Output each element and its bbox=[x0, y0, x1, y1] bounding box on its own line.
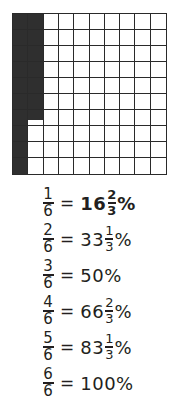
denominator: 6 bbox=[43, 385, 53, 398]
grid-cell bbox=[28, 14, 43, 30]
denominator: 3 bbox=[105, 241, 113, 253]
numerator: 6 bbox=[43, 368, 53, 381]
grid-cell bbox=[90, 142, 105, 158]
grid-cell bbox=[59, 78, 74, 94]
hundred-grid bbox=[12, 13, 167, 175]
percent-whole: 50 bbox=[80, 265, 104, 286]
grid-cell bbox=[28, 46, 43, 62]
denominator: 6 bbox=[43, 205, 53, 218]
denominator: 6 bbox=[43, 277, 53, 290]
grid-cell bbox=[120, 46, 135, 62]
equation-1: 1 6 = 16 2 3 % bbox=[42, 188, 135, 218]
percent-sign: % bbox=[114, 229, 131, 250]
fraction: 4 6 bbox=[42, 296, 54, 326]
fraction: 6 6 bbox=[42, 368, 54, 398]
grid-cell bbox=[44, 142, 59, 158]
fraction: 3 6 bbox=[42, 260, 54, 290]
grid-cell bbox=[28, 142, 43, 158]
percent-sign: % bbox=[114, 301, 131, 322]
grid-cell bbox=[105, 158, 120, 174]
percent-fraction: 2 3 bbox=[105, 297, 113, 324]
fraction: 5 6 bbox=[42, 332, 54, 362]
grid-cell bbox=[74, 30, 89, 46]
grid-cell bbox=[13, 110, 28, 126]
fraction: 2 6 bbox=[42, 224, 54, 254]
grid-cell bbox=[28, 30, 43, 46]
grid-cell bbox=[28, 78, 43, 94]
grid-cell bbox=[120, 78, 135, 94]
grid-cell bbox=[135, 30, 150, 46]
grid-cell bbox=[151, 46, 166, 62]
percent-whole: 83 bbox=[80, 337, 104, 358]
grid-cell bbox=[59, 94, 74, 110]
grid-cell bbox=[151, 158, 166, 174]
grid-cell bbox=[135, 62, 150, 78]
grid-cell bbox=[13, 14, 28, 30]
equals-sign: = bbox=[60, 337, 74, 357]
grid-cell bbox=[151, 14, 166, 30]
grid-cell bbox=[74, 78, 89, 94]
equals-sign: = bbox=[60, 373, 74, 393]
grid-cell bbox=[44, 30, 59, 46]
numerator: 3 bbox=[43, 260, 53, 273]
grid-cell bbox=[28, 126, 43, 142]
grid-cell bbox=[44, 94, 59, 110]
grid-cell bbox=[105, 46, 120, 62]
grid-cell bbox=[105, 30, 120, 46]
grid-cell bbox=[135, 126, 150, 142]
grid-cell bbox=[59, 46, 74, 62]
grid-cell bbox=[151, 78, 166, 94]
grid-cell bbox=[90, 14, 105, 30]
grid-cell bbox=[13, 142, 28, 158]
equation-4: 4 6 = 66 2 3 % bbox=[42, 296, 132, 326]
grid-cell bbox=[120, 126, 135, 142]
grid-cell bbox=[28, 94, 43, 110]
grid-cell bbox=[59, 30, 74, 46]
grid-cell bbox=[59, 62, 74, 78]
percent-fraction: 2 3 bbox=[107, 189, 116, 216]
denominator: 3 bbox=[105, 313, 113, 325]
grid-cell bbox=[105, 110, 120, 126]
grid-cell bbox=[120, 94, 135, 110]
denominator: 6 bbox=[43, 349, 53, 362]
numerator: 2 bbox=[105, 297, 113, 309]
grid-cell bbox=[120, 110, 135, 126]
grid-cell bbox=[28, 110, 43, 126]
grid-cell bbox=[59, 158, 74, 174]
percent-sign: % bbox=[114, 337, 131, 358]
grid-cell bbox=[135, 46, 150, 62]
equals-sign: = bbox=[60, 193, 74, 213]
percent-fraction: 1 3 bbox=[105, 225, 113, 252]
equals-sign: = bbox=[60, 265, 74, 285]
grid-cell bbox=[105, 62, 120, 78]
grid-cell bbox=[135, 158, 150, 174]
grid-cell bbox=[28, 158, 43, 174]
equation-5: 5 6 = 83 1 3 % bbox=[42, 332, 132, 362]
grid-cell bbox=[90, 158, 105, 174]
grid-cell bbox=[59, 14, 74, 30]
equation-6: 6 6 = 100 % bbox=[42, 368, 133, 398]
numerator: 5 bbox=[43, 332, 53, 345]
grid-cell bbox=[120, 142, 135, 158]
grid-cell bbox=[44, 110, 59, 126]
grid-cell bbox=[90, 94, 105, 110]
grid-cell bbox=[120, 62, 135, 78]
grid-cell bbox=[151, 142, 166, 158]
grid-cell bbox=[90, 30, 105, 46]
fraction: 1 6 bbox=[42, 188, 54, 218]
denominator: 3 bbox=[105, 349, 113, 361]
grid-cell bbox=[13, 62, 28, 78]
grid-cell bbox=[90, 126, 105, 142]
percent-fraction: 1 3 bbox=[105, 333, 113, 360]
grid-cell bbox=[13, 94, 28, 110]
grid-cell bbox=[135, 14, 150, 30]
grid-cell bbox=[151, 126, 166, 142]
grid-cell bbox=[74, 158, 89, 174]
grid-cell bbox=[120, 14, 135, 30]
percent-sign: % bbox=[117, 193, 135, 214]
grid-cell bbox=[105, 78, 120, 94]
grid-cell bbox=[105, 126, 120, 142]
percent-whole: 66 bbox=[80, 301, 104, 322]
grid-cell bbox=[90, 110, 105, 126]
grid-cell bbox=[13, 46, 28, 62]
